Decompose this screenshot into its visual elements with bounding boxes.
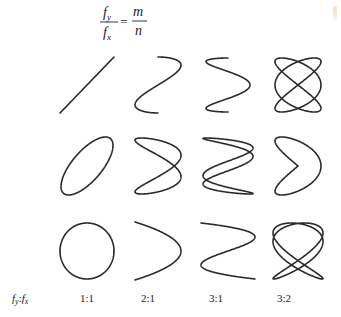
lissajous-figure-3-2-row-1 (275, 58, 321, 112)
page-edge-mark (333, 6, 337, 20)
formula-numerator: fy (103, 5, 111, 22)
lissajous-figure-3-1-row-3 (201, 223, 255, 279)
lissajous-figure-2-1-row-3 (135, 222, 181, 280)
ratio-label-1-1: 1:1 (80, 292, 94, 304)
ratio-axis-label: fy:fx (12, 292, 29, 306)
ratio-label-2-1: 2:1 (141, 292, 155, 304)
lissajous-diagram: fy fx = m n fy:fx 1:1 2:1 3:1 3:2 (0, 0, 341, 317)
frequency-ratio-formula: fy fx = m n (100, 4, 147, 42)
ratio-labels-row: fy:fx 1:1 2:1 3:1 3:2 (12, 292, 291, 306)
lissajous-figures-grid (60, 57, 323, 280)
lissajous-figure-2-1-row-1 (135, 57, 181, 113)
lissajous-figure-3-1-row-1 (206, 58, 250, 112)
formula-denominator: fx (103, 25, 111, 42)
ratio-label-3-1: 3:1 (209, 292, 223, 304)
formula-equals: = (120, 14, 127, 29)
ratio-label-3-2: 3:2 (277, 292, 291, 304)
lissajous-figure-3-2-row-2 (275, 137, 321, 195)
formula-rhs-denominator: n (135, 23, 142, 38)
lissajous-figure-3-1-row-2 (203, 138, 253, 194)
formula-rhs-numerator: m (133, 4, 143, 19)
lissajous-figure-1-1-row-3 (60, 223, 114, 279)
lissajous-figure-2-1-row-2 (135, 138, 181, 194)
lissajous-figure-1-1-row-1 (60, 57, 114, 113)
lissajous-figure-1-1-row-2 (61, 137, 113, 195)
lissajous-figure-3-2-row-3 (273, 223, 323, 279)
